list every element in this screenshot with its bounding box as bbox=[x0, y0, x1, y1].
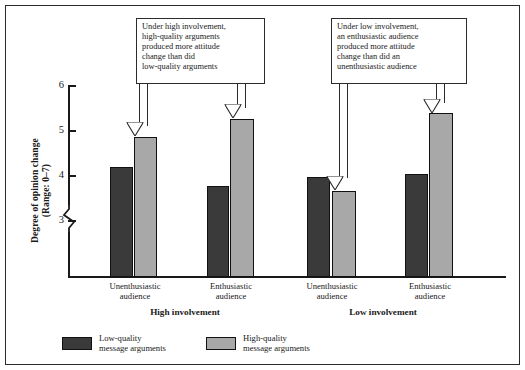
legend-label-line2: message arguments bbox=[99, 344, 209, 354]
y-tick-label-6: 6 bbox=[50, 80, 64, 90]
xlabel-low-enthusiastic: Enthusiastic audience bbox=[387, 282, 473, 301]
callout-line-5: unenthusiastic audience bbox=[337, 62, 461, 72]
axis-break-icon bbox=[62, 203, 78, 235]
xlabel-high-enthusiastic: Enthusiastic audience bbox=[188, 282, 274, 301]
xlabel-low-unenthusiastic: Unenthusiastic audience bbox=[288, 282, 376, 301]
callout-line-2: high-quality arguments bbox=[142, 32, 259, 42]
callout-line-5: low-quality arguments bbox=[142, 62, 259, 72]
callout-high-involvement: Under high involvement, high-quality arg… bbox=[136, 18, 265, 84]
plot-area: 6 5 4 3 Degree of opinion change (Range:… bbox=[0, 0, 525, 370]
callout-line-4: change than did bbox=[142, 52, 259, 62]
y-tick-label-5: 5 bbox=[50, 125, 64, 135]
y-tick-3 bbox=[68, 220, 76, 222]
callout-line-3: produced more attitude bbox=[337, 42, 461, 52]
callout-line-1: Under low involvement, bbox=[337, 22, 461, 32]
xlabel-line2: audience bbox=[387, 292, 473, 302]
callout-line-2: an enthusiastic audience bbox=[337, 32, 461, 42]
bar-low-involvement-enthusiastic-high-quality bbox=[429, 113, 453, 277]
callout-arrow-high-to-enthusiastic bbox=[237, 84, 246, 118]
xlabel-high-unenthusiastic: Unenthusiastic audience bbox=[90, 282, 180, 301]
y-axis-title: Degree of opinion change (Range: 0–7) bbox=[30, 138, 52, 243]
bar-high-involvement-enthusiastic-high-quality bbox=[230, 119, 254, 277]
legend-swatch-low-quality bbox=[62, 337, 92, 350]
callout-arrow-low-to-enthusiastic bbox=[436, 84, 445, 113]
bar-high-involvement-unenthusiastic-high-quality bbox=[134, 137, 157, 277]
legend-swatch-high-quality bbox=[206, 337, 236, 350]
y-axis-title-line1: Degree of opinion change bbox=[30, 138, 41, 243]
y-tick-label-4: 4 bbox=[50, 170, 64, 180]
legend-label-high-quality: High-quality message arguments bbox=[243, 334, 358, 354]
callout-line-4: change than did an bbox=[337, 52, 461, 62]
bar-low-involvement-unenthusiastic-low-quality bbox=[307, 177, 330, 277]
bar-high-involvement-unenthusiastic-low-quality bbox=[110, 167, 133, 277]
y-tick-label-3: 3 bbox=[50, 215, 64, 225]
y-axis-line-lower bbox=[68, 232, 70, 277]
group-label-low-involvement: Low involvement bbox=[318, 307, 448, 317]
y-axis-line bbox=[68, 85, 70, 205]
legend-label-line1: Low-quality bbox=[99, 334, 209, 344]
y-tick-5 bbox=[68, 130, 76, 132]
legend-label-line2: message arguments bbox=[243, 344, 358, 354]
callout-line-3: produced more attitude bbox=[142, 42, 259, 52]
chart-figure: 6 5 4 3 Degree of opinion change (Range:… bbox=[0, 0, 525, 370]
y-tick-4 bbox=[68, 175, 76, 177]
group-label-high-involvement: High involvement bbox=[120, 307, 250, 317]
callout-line-1: Under high involvement, bbox=[142, 22, 259, 32]
bar-low-involvement-unenthusiastic-high-quality bbox=[332, 191, 356, 277]
legend-label-line1: High-quality bbox=[243, 334, 358, 344]
legend-label-low-quality: Low-quality message arguments bbox=[99, 334, 209, 354]
xlabel-line2: audience bbox=[188, 292, 274, 302]
callout-arrow-low-to-unenthusiastic bbox=[339, 84, 348, 190]
callout-arrow-high-to-unenthusiastic bbox=[139, 84, 148, 136]
xlabel-line2: audience bbox=[288, 292, 376, 302]
y-axis-title-line2: (Range: 0–7) bbox=[41, 138, 52, 243]
y-tick-6 bbox=[68, 85, 76, 87]
xlabel-line2: audience bbox=[90, 292, 180, 302]
bar-high-involvement-enthusiastic-low-quality bbox=[207, 186, 229, 277]
bar-low-involvement-enthusiastic-low-quality bbox=[405, 174, 428, 277]
callout-low-involvement: Under low involvement, an enthusiastic a… bbox=[331, 18, 467, 84]
